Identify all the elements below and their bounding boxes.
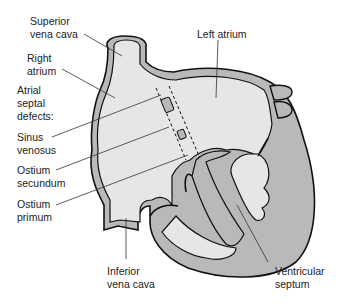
label-superior-vena-cava: Superior vena cava — [30, 15, 78, 41]
label-inferior-vena-cava: Inferior vena cava — [107, 265, 155, 291]
label-ventricular-septum: Ventricular septum — [275, 265, 325, 291]
label-ostium-primum: Ostium primum — [17, 198, 52, 224]
label-atrial-septal-defects: Atrial septal defects: — [17, 84, 54, 123]
label-right-atrium: Right atrium — [27, 52, 56, 78]
label-left-atrium: Left atrium — [197, 28, 247, 41]
label-sinus-venosus: Sinus venosus — [17, 131, 56, 157]
label-ostium-secundum: Ostium secundum — [17, 164, 65, 190]
